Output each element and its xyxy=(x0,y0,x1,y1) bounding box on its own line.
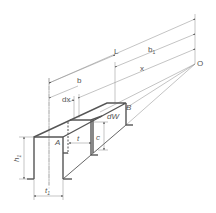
projection-line-1 xyxy=(100,64,195,112)
label-b1: b1 xyxy=(148,45,155,55)
label-h1-sub: 1 xyxy=(16,155,22,158)
dimension-b xyxy=(49,55,115,83)
label-c: c xyxy=(96,133,100,142)
dimension-x xyxy=(78,49,195,98)
label-A: A xyxy=(54,138,60,147)
dimension-L xyxy=(49,19,195,83)
cantilever-beam-diagram: L b1 x b dx O B dW A t c h1 t1 xyxy=(0,0,216,213)
projection-line-3 xyxy=(126,64,195,125)
label-x: x xyxy=(140,64,144,73)
section-slice xyxy=(70,120,91,155)
label-dW: dW xyxy=(107,112,120,121)
label-O: O xyxy=(197,59,203,68)
label-t: t xyxy=(77,134,80,143)
projection-line-2 xyxy=(126,64,195,108)
label-h1: h1 xyxy=(12,155,22,162)
label-t1: t1 xyxy=(45,186,50,196)
label-b1-sub: 1 xyxy=(152,49,155,55)
beam-bottom-edge xyxy=(63,125,126,179)
label-dx: dx xyxy=(62,95,70,104)
label-L: L xyxy=(114,47,119,56)
label-b: b xyxy=(77,76,82,85)
label-B: B xyxy=(126,103,132,112)
label-t1-sub: 1 xyxy=(47,190,50,196)
